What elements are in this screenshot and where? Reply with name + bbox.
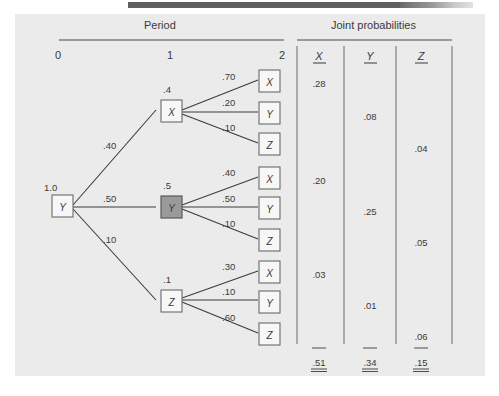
figure-root: Period Joint probabilities 0 1 2 X Y Z <box>0 0 499 396</box>
node-p2-6-label: Z <box>265 236 273 247</box>
period-tick-2: 2 <box>279 49 285 61</box>
branch-prob-z-z: .60 <box>222 312 235 323</box>
branch-prob-y-x: .40 <box>222 167 235 178</box>
total-z: .15 <box>414 357 427 368</box>
root-probability: 1.0 <box>44 182 57 193</box>
period-tick-1: 1 <box>167 49 173 61</box>
branch-prob-y-z: .10 <box>222 218 235 229</box>
node-p1-x-probability: .4 <box>163 84 171 95</box>
joint-probabilities-heading: Joint probabilities <box>331 19 416 31</box>
node-p2-4-label: X <box>265 174 273 185</box>
branch-y-to-x <box>182 177 258 205</box>
branch-prob-x-z: .10 <box>222 122 235 133</box>
column-header-x: X <box>314 50 323 62</box>
joint-value-y-2: .25 <box>363 206 376 217</box>
branch-root-to-z <box>73 209 156 300</box>
joint-value-y-3: .01 <box>363 300 376 311</box>
joint-value-x-3: .03 <box>312 269 325 280</box>
branch-prob-root-x: .40 <box>103 140 116 151</box>
node-p2-3-label: Z <box>265 140 273 151</box>
branch-x-to-x <box>182 80 258 110</box>
period-heading: Period <box>144 19 176 31</box>
node-p2-7-label: X <box>265 268 273 279</box>
node-p1-z-label: Z <box>167 297 175 308</box>
branch-y-to-z <box>182 209 258 239</box>
joint-value-x-1: .28 <box>312 78 325 89</box>
total-y: .34 <box>363 357 376 368</box>
node-p2-1-label: X <box>265 77 273 88</box>
column-header-y: Y <box>366 50 374 62</box>
branch-prob-root-y: .50 <box>103 193 116 204</box>
branch-prob-z-y: .10 <box>222 286 235 297</box>
total-x: .51 <box>312 357 325 368</box>
node-p1-x-label: X <box>167 107 175 118</box>
period-tick-0: 0 <box>55 49 61 61</box>
joint-value-z-1: .04 <box>414 143 427 154</box>
branch-z-to-x <box>182 271 258 298</box>
node-p1-z-probability: .1 <box>163 274 171 285</box>
branch-root-to-x <box>73 110 156 205</box>
branch-x-to-z <box>182 114 258 143</box>
branch-prob-x-x: .70 <box>222 71 235 82</box>
branch-z-to-z <box>182 302 258 333</box>
node-p1-y-probability: .5 <box>163 180 171 191</box>
branch-prob-y-y: .50 <box>222 193 235 204</box>
joint-value-z-2: .05 <box>414 237 427 248</box>
joint-value-x-2: .20 <box>312 175 325 186</box>
node-p2-9-label: Z <box>265 330 273 341</box>
branch-prob-x-y: .20 <box>222 97 235 108</box>
column-header-z: Z <box>417 50 426 62</box>
joint-value-z-3: .06 <box>414 331 427 342</box>
probability-tree-figure: Period Joint probabilities 0 1 2 X Y Z <box>0 0 499 396</box>
branch-prob-z-x: .30 <box>222 261 235 272</box>
branch-prob-root-z: .10 <box>103 234 116 245</box>
joint-value-y-1: .08 <box>363 111 376 122</box>
